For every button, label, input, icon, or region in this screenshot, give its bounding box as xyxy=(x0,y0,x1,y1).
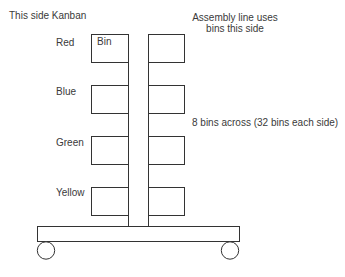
title-left: This side Kanban xyxy=(9,10,86,21)
kanban-cart-diagram: This side Kanban Assembly line uses bins… xyxy=(0,0,345,277)
bin-blue-left xyxy=(92,86,129,114)
bin-blue-right xyxy=(149,86,185,114)
bin-green-right xyxy=(149,137,185,165)
row-label-red: Red xyxy=(56,37,74,48)
bin-label: Bin xyxy=(97,36,111,47)
wheel-left-icon xyxy=(37,242,54,259)
wheel-right-icon xyxy=(221,242,238,259)
row-label-blue: Blue xyxy=(56,86,76,97)
bin-yellow-right xyxy=(149,188,185,216)
bin-yellow-left xyxy=(92,188,129,216)
bins-annotation: 8 bins across (32 bins each side) xyxy=(192,117,338,128)
bin-red-right xyxy=(149,35,185,63)
title-right-line2: bins this side xyxy=(206,23,264,34)
cart-base xyxy=(38,227,240,242)
row-label-green: Green xyxy=(56,137,84,148)
title-right-line1: Assembly line uses xyxy=(192,12,278,23)
bin-green-left xyxy=(92,137,129,165)
row-label-yellow: Yellow xyxy=(56,187,85,198)
